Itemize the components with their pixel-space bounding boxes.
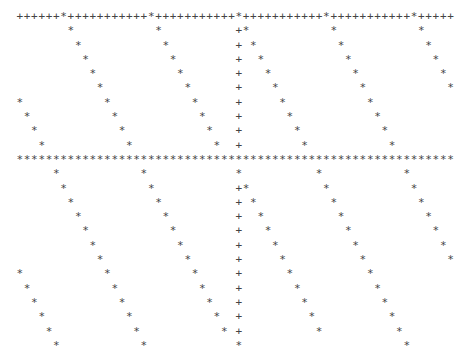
- data-point: *: [410, 182, 417, 196]
- data-point: *: [381, 153, 388, 167]
- data-point: *: [410, 153, 417, 167]
- data-point: *: [286, 153, 293, 167]
- data-point: *: [308, 153, 315, 167]
- axis-mark: +: [359, 10, 366, 24]
- data-point: *: [264, 67, 271, 81]
- axis-mark: +: [432, 10, 439, 24]
- axis-mark: +: [272, 10, 279, 24]
- data-point: *: [199, 153, 206, 167]
- data-point: *: [366, 267, 373, 281]
- data-point: *: [220, 325, 227, 339]
- data-point: *: [96, 153, 103, 167]
- data-point: *: [53, 153, 60, 167]
- data-point: *: [38, 310, 45, 324]
- axis-mark: +: [228, 10, 235, 24]
- axis-mark: +: [45, 10, 52, 24]
- axis-mark: +: [74, 10, 81, 24]
- data-point: *: [96, 253, 103, 267]
- axis-mark: +: [16, 10, 23, 24]
- axis-mark: +: [31, 10, 38, 24]
- data-point: *: [118, 124, 125, 138]
- data-point: *: [235, 167, 242, 181]
- axis-mark: +: [169, 10, 176, 24]
- data-point: *: [74, 39, 81, 53]
- data-point: *: [60, 153, 67, 167]
- data-point: *: [147, 182, 154, 196]
- data-point: *: [162, 39, 169, 53]
- data-point: *: [272, 153, 279, 167]
- data-point: *: [301, 139, 308, 153]
- axis-mark: +: [235, 196, 242, 210]
- axis-mark: +: [235, 96, 242, 110]
- axis-mark: +: [235, 110, 242, 124]
- data-point: *: [315, 167, 322, 181]
- data-point: *: [235, 153, 242, 167]
- data-point: *: [228, 153, 235, 167]
- data-point: *: [279, 253, 286, 267]
- data-point: *: [301, 296, 308, 310]
- axis-mark: +: [82, 10, 89, 24]
- data-point: *: [374, 153, 381, 167]
- data-point: *: [388, 153, 395, 167]
- data-point: *: [388, 139, 395, 153]
- axis-mark: +: [235, 239, 242, 253]
- data-point: *: [213, 310, 220, 324]
- data-point: *: [250, 39, 257, 53]
- data-point: *: [374, 282, 381, 296]
- data-point: *: [126, 139, 133, 153]
- axis-mark: +: [133, 10, 140, 24]
- data-point: *: [184, 253, 191, 267]
- data-point: *: [286, 110, 293, 124]
- data-point: *: [140, 339, 147, 353]
- data-point: *: [133, 325, 140, 339]
- data-point: *: [162, 210, 169, 224]
- data-point: *: [74, 210, 81, 224]
- data-point: *: [337, 210, 344, 224]
- data-point: *: [140, 153, 147, 167]
- axis-mark: +: [250, 10, 257, 24]
- data-point: *: [396, 325, 403, 339]
- axis-mark: +: [118, 10, 125, 24]
- axis-mark: +: [199, 10, 206, 24]
- data-point: *: [23, 110, 30, 124]
- axis-mark: +: [235, 210, 242, 224]
- data-point: *: [67, 153, 74, 167]
- data-point: *: [293, 124, 300, 138]
- axis-mark: +: [235, 67, 242, 81]
- data-point: *: [447, 153, 454, 167]
- data-point: *: [16, 267, 23, 281]
- data-point: *: [279, 153, 286, 167]
- axis-mark: +: [439, 10, 446, 24]
- data-point: *: [279, 96, 286, 110]
- data-point: *: [272, 81, 279, 95]
- data-point: *: [74, 153, 81, 167]
- data-point: *: [111, 110, 118, 124]
- data-point: *: [169, 224, 176, 238]
- data-point: *: [162, 153, 169, 167]
- data-point: *: [67, 24, 74, 38]
- data-point: *: [60, 182, 67, 196]
- data-point: *: [111, 153, 118, 167]
- data-point: *: [352, 153, 359, 167]
- axis-mark: +: [184, 10, 191, 24]
- data-point: *: [264, 153, 271, 167]
- data-point: *: [330, 196, 337, 210]
- axis-mark: +: [315, 10, 322, 24]
- data-point: *: [206, 153, 213, 167]
- data-point: *: [425, 39, 432, 53]
- data-point: *: [177, 239, 184, 253]
- axis-mark: +: [425, 10, 432, 24]
- axis-mark: +: [235, 139, 242, 153]
- axis-mark: +: [235, 267, 242, 281]
- data-point: *: [126, 153, 133, 167]
- data-point: *: [31, 153, 38, 167]
- axis-mark: +: [96, 10, 103, 24]
- data-point: *: [301, 153, 308, 167]
- axis-mark: +: [337, 10, 344, 24]
- data-point: *: [155, 24, 162, 38]
- data-point: *: [272, 239, 279, 253]
- data-point: *: [140, 167, 147, 181]
- data-point: *: [53, 339, 60, 353]
- axis-mark: +: [257, 10, 264, 24]
- data-point: *: [374, 110, 381, 124]
